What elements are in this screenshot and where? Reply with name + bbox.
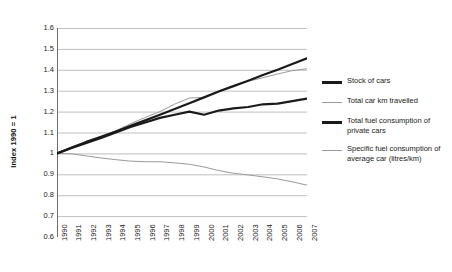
x-axis-tick-label: 1999 — [193, 224, 201, 241]
x-axis-tick-label: 1996 — [149, 224, 157, 241]
x-axis-tick-label: 2001 — [222, 224, 230, 241]
x-axis-tick-label: 1990 — [61, 224, 69, 241]
legend-item[interactable]: Specific fuel consumption of average car… — [322, 144, 450, 163]
chart-legend: Stock of carsTotal car km travelledTotal… — [322, 76, 450, 172]
legend-item[interactable]: Total car km travelled — [322, 96, 450, 107]
x-axis-tick-label: 1992 — [90, 224, 98, 241]
legend-item-label: Stock of cars — [347, 76, 390, 86]
x-axis-tick-label: 1997 — [163, 224, 171, 241]
x-axis-tick-label: 1993 — [105, 224, 113, 241]
legend-swatch-icon — [322, 78, 342, 87]
x-axis-tick-label: 2004 — [266, 224, 274, 241]
legend-swatch-icon — [322, 98, 342, 107]
x-axis-tick-label: 1995 — [134, 224, 142, 241]
x-axis-tick-label: 2007 — [311, 224, 319, 241]
x-axis-tick-label: 1991 — [75, 224, 83, 241]
legend-item-label: Total fuel consumption of private cars — [347, 116, 447, 135]
legend-swatch-icon — [322, 118, 342, 127]
x-axis-tick-label: 2002 — [237, 224, 245, 241]
x-axis-tick-label: 2006 — [296, 224, 304, 241]
legend-item[interactable]: Stock of cars — [322, 76, 450, 87]
legend-item-label: Specific fuel consumption of average car… — [347, 144, 447, 163]
x-axis-tick-label: 1994 — [119, 224, 127, 241]
legend-swatch-icon — [322, 146, 342, 155]
legend-item[interactable]: Total fuel consumption of private cars — [322, 116, 450, 135]
x-axis-tick-label: 2003 — [252, 224, 260, 241]
legend-item-label: Total car km travelled — [347, 96, 418, 106]
x-axis-tick-label: 1998 — [178, 224, 186, 241]
x-axis-tick-label: 2005 — [281, 224, 289, 241]
chart-screenshot: Index 1990 = 1 1.61.51.41.31.21.110.90.8… — [0, 0, 452, 272]
x-axis-tick-label: 2000 — [208, 224, 216, 241]
